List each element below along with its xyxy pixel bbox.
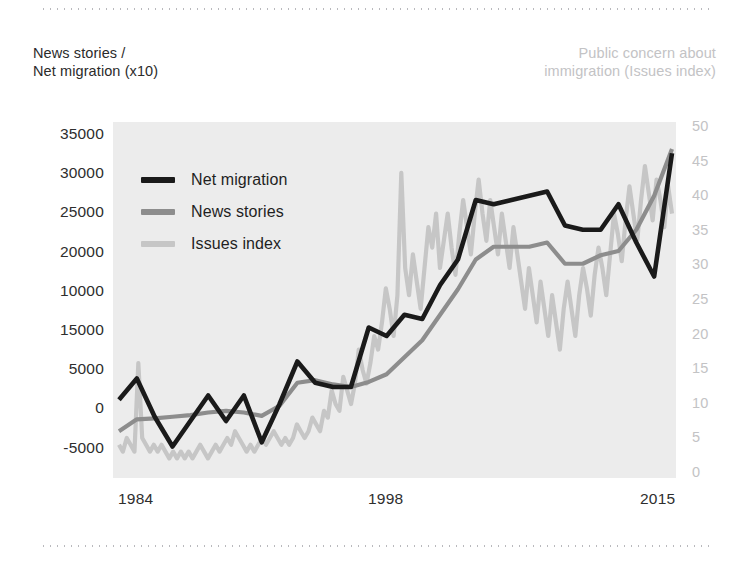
y2-axis-tick-label: 10 <box>692 395 742 411</box>
y2-axis-tick-label: 45 <box>692 153 742 169</box>
x-axis-tick-label: 1998 <box>368 490 403 508</box>
y2-axis-tick-label: 50 <box>692 118 742 134</box>
legend-swatch-icon <box>141 177 175 183</box>
legend-item: Net migration <box>141 164 287 196</box>
x-axis-tick-label: 2015 <box>640 490 675 508</box>
y2-axis-tick-label: 25 <box>692 291 742 307</box>
y-axis-tick-label: 25000 <box>18 203 104 221</box>
x-axis-tick-label: 1984 <box>118 490 153 508</box>
y2-axis-tick-label: 30 <box>692 256 742 272</box>
y-axis-tick-label: 20000 <box>18 243 104 261</box>
y2-axis-tick-label: 0 <box>692 464 742 480</box>
y-axis-tick-label: 15000 <box>18 321 104 339</box>
divider-top <box>40 8 714 10</box>
y-axis-tick-label: 0 <box>18 399 104 417</box>
y2-axis-tick-label: 15 <box>692 360 742 376</box>
left-axis-caption: News stories / Net migration (x10) <box>33 44 158 80</box>
legend-item-label: Issues index <box>191 235 281 253</box>
y-axis-tick-label: 30000 <box>18 164 104 182</box>
y-axis-tick-label: 10000 <box>18 282 104 300</box>
legend-item: Issues index <box>141 228 287 260</box>
y-axis-tick-label: 5000 <box>18 360 104 378</box>
chart-legend: Net migrationNews storiesIssues index <box>141 164 287 260</box>
left-axis-caption-line2: Net migration (x10) <box>33 62 158 80</box>
y2-axis-tick-label: 35 <box>692 222 742 238</box>
right-axis-caption-line2: immigration (Issues index) <box>544 62 716 80</box>
y2-axis-tick-label: 20 <box>692 326 742 342</box>
legend-swatch-icon <box>141 241 175 247</box>
legend-item-label: Net migration <box>191 171 287 189</box>
right-axis-caption: Public concern about immigration (Issues… <box>544 44 716 80</box>
legend-item-label: News stories <box>191 203 284 221</box>
legend-item: News stories <box>141 196 287 228</box>
y2-axis-tick-label: 5 <box>692 429 742 445</box>
chart-page: News stories / Net migration (x10) Publi… <box>0 0 754 564</box>
y-axis-tick-label: 35000 <box>18 125 104 143</box>
left-axis-caption-line1: News stories / <box>33 44 158 62</box>
y-axis-tick-label: -5000 <box>18 439 104 457</box>
y2-axis-tick-label: 40 <box>692 187 742 203</box>
divider-bottom <box>40 545 714 547</box>
legend-swatch-icon <box>141 209 175 215</box>
right-axis-caption-line1: Public concern about <box>544 44 716 62</box>
